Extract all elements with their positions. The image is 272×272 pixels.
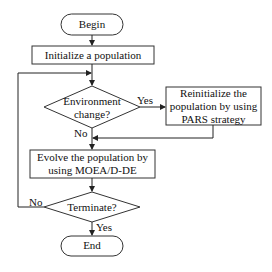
edge-label-term-no: No	[29, 196, 42, 209]
init-label: Initialize a population	[32, 49, 154, 62]
evolve-label-1: Evolve the population by	[30, 151, 155, 164]
reinit-label-1: Reinitialize the	[166, 87, 261, 100]
flowchart-canvas	[0, 0, 272, 272]
evolve-label-2: using MOEA/D-DE	[30, 164, 155, 177]
edge-label-term-yes: Yes	[96, 221, 112, 234]
arrow-reinit-return	[93, 125, 213, 138]
edge-label-env-no: No	[74, 127, 87, 140]
edge-label-env-yes: Yes	[137, 94, 153, 107]
env-change-label-1: Environment	[44, 95, 140, 108]
reinit-label-2: population by using	[166, 100, 261, 113]
begin-label: Begin	[61, 18, 123, 31]
end-label: End	[61, 239, 123, 252]
reinit-label-3: PARS strategy	[166, 113, 261, 126]
env-change-label-2: change?	[44, 108, 140, 121]
terminate-label: Terminate?	[44, 201, 140, 214]
